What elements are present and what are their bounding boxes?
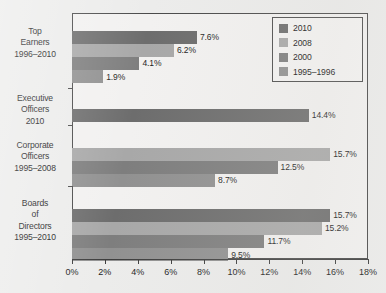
bar[interactable] [72, 31, 197, 44]
bar-group: 15.7%15.2%11.7%9.5% [72, 209, 368, 261]
category-label-line: Earners [0, 37, 70, 48]
bar[interactable] [72, 209, 330, 222]
category-label: CorporateOfficers1995–2008 [0, 140, 70, 174]
legend-swatch-icon [279, 53, 288, 62]
category-label-line: Executive [0, 93, 70, 104]
category-label-line: 1995–2010 [0, 232, 70, 243]
bar[interactable] [72, 70, 103, 83]
bar-row: 12.5% [72, 161, 368, 174]
x-axis-tick-label: 14% [293, 267, 311, 277]
category-label-line: Boards [0, 198, 70, 209]
bar-value-label: 4.1% [139, 58, 161, 68]
bar[interactable] [72, 222, 322, 235]
legend-item[interactable]: 2008 [279, 36, 362, 51]
bar[interactable] [72, 44, 174, 57]
bar-value-label: 15.7% [330, 149, 357, 159]
x-axis-tick [335, 259, 336, 264]
y-axis-category-tick [68, 88, 73, 89]
bar[interactable] [72, 57, 139, 70]
category-label: TopEarners1996–2010 [0, 26, 70, 60]
x-axis-tick-label: 10% [227, 267, 245, 277]
bar-value-label: 12.5% [278, 162, 305, 172]
category-label: ExecutiveOfficers2010 [0, 93, 70, 127]
bar-value-label: 15.7% [330, 210, 357, 220]
category-label-line: 2010 [0, 116, 70, 127]
legend-swatch-icon [279, 24, 288, 33]
category-label: BoardsofDirectors1995–2010 [0, 198, 70, 244]
bar[interactable] [72, 109, 309, 122]
legend-swatch-icon [279, 38, 288, 47]
x-axis-tick [171, 259, 172, 264]
bar-value-label: 1.9% [103, 72, 125, 82]
bar-row: 14.4% [72, 109, 368, 122]
bar[interactable] [72, 235, 264, 248]
legend-label: 2000 [293, 52, 312, 62]
category-label-line: Directors [0, 221, 70, 232]
x-axis-tick [105, 259, 106, 264]
x-axis-tick-label: 12% [260, 267, 278, 277]
bar[interactable] [72, 161, 278, 174]
x-axis-line [72, 259, 368, 260]
bar-value-label: 15.2% [322, 223, 349, 233]
x-axis-tick [138, 259, 139, 264]
x-axis-tick [236, 259, 237, 264]
category-label-line: Corporate [0, 140, 70, 151]
legend-item[interactable]: 2010 [279, 21, 362, 36]
bar[interactable] [72, 174, 215, 187]
x-axis-tick [368, 259, 369, 264]
x-axis-tick-label: 18% [359, 267, 377, 277]
x-axis-tick-label: 0% [65, 267, 78, 277]
chart-figure: 7.6%6.2%4.1%1.9%14.4%15.7%12.5%8.7%15.7%… [0, 0, 386, 293]
bar-group: 14.4% [72, 109, 368, 122]
bar-row: 15.2% [72, 222, 368, 235]
legend-label: 2008 [293, 38, 312, 48]
bar-row: 15.7% [72, 209, 368, 222]
x-axis-tick [302, 259, 303, 264]
x-axis-tick-label: 4% [131, 267, 144, 277]
bar-value-label: 14.4% [309, 110, 336, 120]
legend-item[interactable]: 1995–1996 [279, 65, 362, 80]
x-axis-tick-label: 6% [164, 267, 177, 277]
bar-row: 11.7% [72, 235, 368, 248]
x-axis-tick-label: 2% [98, 267, 111, 277]
bar-value-label: 8.7% [215, 175, 237, 185]
bar-value-label: 7.6% [197, 32, 219, 42]
bar-row: 15.7% [72, 148, 368, 161]
bar-row: 8.7% [72, 174, 368, 187]
chart-legend: 2010200820001995–1996 [272, 17, 363, 82]
category-label-line: 1995–2008 [0, 163, 70, 174]
category-label-line: 1996–2010 [0, 49, 70, 60]
bar-value-label: 11.7% [264, 236, 290, 246]
bar-value-label: 6.2% [174, 45, 196, 55]
x-axis-tick [269, 259, 270, 264]
category-label-line: Officers [0, 151, 70, 162]
x-axis-tick-label: 8% [197, 267, 210, 277]
category-label-line: Officers [0, 104, 70, 115]
x-axis-tick-label: 16% [326, 267, 344, 277]
x-axis-tick [72, 259, 73, 264]
legend-item[interactable]: 2000 [279, 50, 362, 65]
bar[interactable] [72, 148, 330, 161]
legend-swatch-icon [279, 67, 288, 76]
legend-label: 2010 [293, 23, 312, 33]
category-label-line: of [0, 209, 70, 220]
bar-group: 15.7%12.5%8.7% [72, 148, 368, 187]
legend-label: 1995–1996 [293, 67, 335, 77]
y-axis-category-tick [68, 186, 73, 187]
x-axis-tick [204, 259, 205, 264]
y-axis-category-tick [68, 125, 73, 126]
category-label-line: Top [0, 26, 70, 37]
